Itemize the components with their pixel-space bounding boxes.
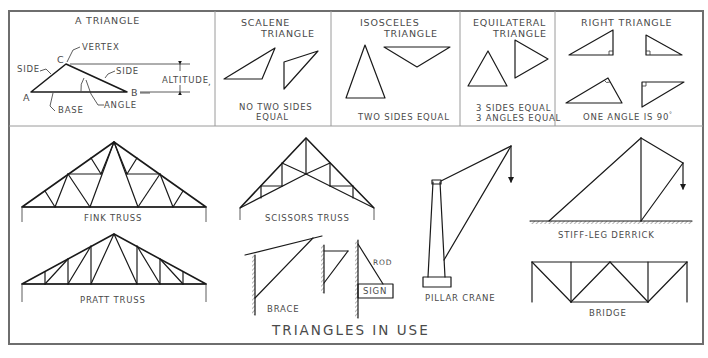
brace-strut xyxy=(255,238,313,298)
comma-mark: , xyxy=(208,77,212,87)
pratt-truss: PRATT TRUSS xyxy=(22,234,206,305)
pillar-crane-label: PILLAR CRANE xyxy=(425,293,495,303)
equilateral-caption-2: 3 ANGLES EQUAL xyxy=(476,113,561,123)
right-triangle-2 xyxy=(646,35,682,55)
side-left-leader xyxy=(40,69,51,74)
base-leader xyxy=(50,93,55,111)
isosceles-triangle-2 xyxy=(384,47,450,67)
right-caption: ONE ANGLE IS 90° xyxy=(583,110,673,122)
crane-base xyxy=(423,277,451,287)
right-triangle-3 xyxy=(566,78,622,103)
isosceles-caption: TWO SIDES EQUAL xyxy=(357,112,450,122)
panel-isosceles: ISOSCELES TRIANGLE TWO SIDES EQUAL xyxy=(346,17,450,122)
isosceles-triangle-1 xyxy=(346,45,385,98)
equilateral-title-2: TRIANGLE xyxy=(492,28,547,39)
point-a-label: A xyxy=(23,92,30,103)
equilateral-caption-1: 3 SIDES EQUAL xyxy=(476,103,551,113)
scissors-truss-label: SCISSORS TRUSS xyxy=(265,213,350,223)
bridge-label: BRIDGE xyxy=(589,308,627,318)
base-label: BASE xyxy=(58,105,84,115)
vertex-leader xyxy=(67,47,80,62)
scalene-title-1: SCALENE xyxy=(241,17,290,28)
vertex-label: VERTEX xyxy=(82,42,120,52)
derrick-topping-line xyxy=(641,138,683,163)
side-right-label: SIDE xyxy=(116,66,139,76)
side-right-leader xyxy=(105,71,115,78)
equilateral-triangle-2 xyxy=(515,40,548,78)
bridge: BRIDGE xyxy=(532,262,687,318)
right-triangle-4 xyxy=(642,82,684,107)
scalene-caption-1: NO TWO SIDES xyxy=(239,102,313,112)
stiff-leg-derrick: STIFF-LEG DERRICK xyxy=(530,138,692,240)
labeled-triangle xyxy=(31,64,127,92)
altitude-label: ALTITUDE xyxy=(162,75,209,85)
triangles-plate: A TRIANGLE ALTITUDE , VERTEX C SIDE SIDE… xyxy=(0,0,708,358)
fink-truss: FINK TRUSS xyxy=(22,142,206,223)
scissors-truss: SCISSORS TRUSS xyxy=(240,138,374,223)
side-left-label: SIDE xyxy=(17,64,40,74)
angle-arc xyxy=(81,78,84,91)
section-title: TRIANGLES IN USE xyxy=(271,322,430,338)
sign-with-rod: ROD SIGN xyxy=(355,240,393,318)
panel-right-triangle: RIGHT TRIANGLE ONE ANGLE IS 90° xyxy=(566,17,684,122)
right-title: RIGHT TRIANGLE xyxy=(581,17,672,28)
pratt-truss-label: PRATT TRUSS xyxy=(80,295,146,305)
sign-label: SIGN xyxy=(363,286,387,296)
isosceles-title-2: TRIANGLE xyxy=(383,28,438,39)
fink-truss-label: FINK TRUSS xyxy=(84,213,142,223)
panel-a-triangle: A TRIANGLE ALTITUDE , VERTEX C SIDE SIDE… xyxy=(17,15,212,115)
panel-scalene: SCALENE TRIANGLE NO TWO SIDES EQUAL xyxy=(224,17,318,122)
vertex-letter: C xyxy=(57,54,64,65)
shelf-strut xyxy=(324,251,348,283)
isosceles-title-1: ISOSCELES xyxy=(360,17,420,28)
scalene-triangle-1 xyxy=(224,48,275,79)
derrick-stiff-leg xyxy=(549,138,641,221)
pratt-truss-chords xyxy=(22,234,206,284)
panel-title: A TRIANGLE xyxy=(75,15,140,26)
brace: BRACE xyxy=(245,236,348,315)
angle-label: ANGLE xyxy=(104,100,137,110)
brace-label: BRACE xyxy=(267,304,299,314)
right-triangle-1 xyxy=(569,30,613,55)
stiff-leg-derrick-label: STIFF-LEG DERRICK xyxy=(558,230,655,240)
scalene-title-2: TRIANGLE xyxy=(260,28,315,39)
point-b-label: B xyxy=(131,87,138,98)
scalene-triangle-2 xyxy=(284,51,318,89)
equilateral-title-1: EQUILATERAL xyxy=(473,17,546,28)
panel-equilateral: EQUILATERAL TRIANGLE 3 SIDES EQUAL 3 ANG… xyxy=(468,17,561,123)
rod-label: ROD xyxy=(373,258,392,267)
pillar-crane: PILLAR CRANE xyxy=(423,146,511,303)
equilateral-triangle-1 xyxy=(468,51,507,86)
derrick-boom xyxy=(641,163,683,221)
brace-beam xyxy=(245,236,322,255)
scalene-caption-2: EQUAL xyxy=(256,112,289,122)
